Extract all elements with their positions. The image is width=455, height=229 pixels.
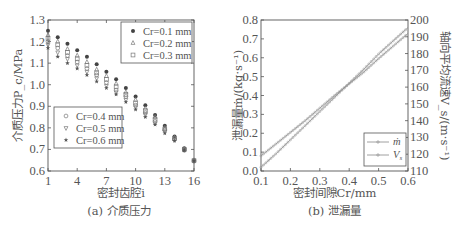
y2-axis-label: 轴向平均流速V_s/(m·s⁻¹) — [438, 31, 452, 161]
figure: 1471013160.60.70.80.91.01.11.21.3密封齿腔i介质… — [0, 0, 455, 229]
legend-entry: Cr=0.6 mm — [76, 135, 125, 146]
legend: Cr=0.4 mmCr=0.5 mmCr=0.6 mm — [54, 107, 125, 148]
caption: (a) 介质压力 — [87, 204, 151, 218]
y-tick-label: 0.1 — [242, 145, 258, 159]
y-tick-label: 0.8 — [29, 121, 45, 135]
pressure-chart: 1471013160.60.70.80.91.01.11.21.3密封齿腔i介质… — [11, 13, 200, 218]
y-tick-label: 1.1 — [29, 56, 45, 70]
x-tick-label: 13 — [159, 174, 172, 188]
y2-tick-label: 160 — [410, 80, 429, 94]
x-tick-label: 16 — [188, 174, 201, 188]
y-axis-label: 介质压力P_c/MPa — [11, 49, 25, 143]
y2-tick-label: 140 — [410, 114, 429, 128]
y-tick-label: 0.8 — [242, 13, 258, 27]
y-tick-label: 1.3 — [29, 13, 45, 27]
legend-entry: Cr=0.3 mm — [143, 50, 192, 61]
y-tick-label: 1.2 — [29, 35, 45, 49]
x-axis-label: 密封齿腔i — [97, 186, 145, 200]
legend-entry: Cr=0.1 mm — [143, 26, 192, 37]
y2-tick-label: 190 — [410, 30, 429, 44]
y2-tick-label: 150 — [410, 97, 429, 111]
legend-entry: Cr=0.2 mm — [143, 38, 192, 49]
y2-tick-label: 130 — [410, 130, 429, 144]
legend-entry-m: ṁ — [393, 136, 401, 147]
legend: Cr=0.1 mmCr=0.2 mmCr=0.3 mm — [121, 22, 192, 63]
y-axis-label: 泄漏量ṁ/(kg·s⁻¹) — [231, 50, 245, 141]
legend-entry: Cr=0.5 mm — [76, 123, 125, 134]
y2-tick-label: 110 — [410, 164, 428, 178]
y2-tick-label: 200 — [410, 13, 429, 27]
y2-tick-label: 170 — [410, 63, 429, 77]
y-tick-label: 0.9 — [29, 99, 45, 113]
y2-tick-label: 120 — [410, 147, 429, 161]
y-tick-label: 0.7 — [242, 32, 258, 46]
y2-tick-label: 180 — [410, 47, 429, 61]
legend-entry: Cr=0.4 mm — [76, 111, 125, 122]
y-tick-label: 1.0 — [29, 78, 45, 92]
leakage-chart: 0.10.20.30.40.50.60.00.10.20.30.40.50.60… — [231, 13, 452, 218]
x-axis-label: 密封间隙Cr/mm — [293, 186, 377, 200]
legend: ṁVs — [364, 133, 406, 166]
x-tick-label: 4 — [74, 174, 81, 188]
y-tick-label: 0.6 — [29, 164, 45, 178]
y-tick-label: 0.7 — [29, 142, 45, 156]
y-tick-label: 0.0 — [242, 164, 258, 178]
x-tick-label: 1 — [45, 174, 51, 188]
caption: (b) 泄漏量 — [308, 204, 361, 218]
